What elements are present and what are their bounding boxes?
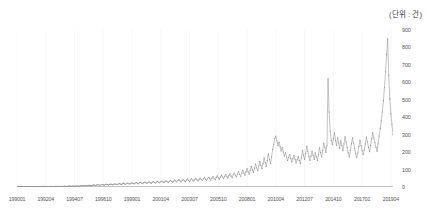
data-point — [134, 183, 135, 184]
data-point — [167, 181, 168, 182]
data-point — [100, 185, 101, 186]
x-tick-200104: 200104 — [148, 196, 174, 202]
data-point — [177, 180, 178, 181]
data-point — [267, 160, 268, 161]
x-tick-201207: 201207 — [292, 196, 318, 202]
data-point — [163, 182, 164, 183]
data-point — [172, 182, 173, 183]
data-point — [127, 183, 128, 184]
data-point — [238, 171, 239, 172]
data-point — [236, 177, 237, 178]
data-point — [325, 152, 326, 153]
data-point — [133, 183, 134, 184]
data-point — [242, 170, 243, 171]
data-point — [332, 144, 333, 145]
data-point — [294, 159, 295, 160]
vertical-gridlines — [17, 30, 391, 187]
data-point — [117, 184, 118, 185]
data-point — [257, 170, 258, 171]
y-tick-700: 700 — [402, 62, 411, 68]
x-tick-199407: 199407 — [62, 196, 88, 202]
data-point — [173, 180, 174, 181]
x-tick-199001: 199001 — [4, 196, 30, 202]
data-point — [153, 181, 154, 182]
data-point — [286, 156, 287, 157]
data-point — [97, 184, 98, 185]
data-point — [304, 159, 305, 160]
y-tick-400: 400 — [402, 114, 411, 120]
data-point — [210, 179, 211, 180]
data-point — [142, 183, 143, 184]
data-point — [272, 149, 273, 150]
data-point — [297, 159, 298, 160]
data-point — [298, 156, 299, 157]
data-point — [143, 182, 144, 183]
data-point — [199, 179, 200, 180]
data-point — [141, 182, 142, 183]
data-point — [81, 185, 82, 186]
y-tick-800: 800 — [402, 44, 411, 50]
data-point — [337, 137, 338, 138]
data-point — [183, 179, 184, 180]
data-point — [383, 100, 384, 101]
data-point — [264, 157, 265, 158]
data-point — [101, 184, 102, 185]
data-point — [94, 185, 95, 186]
data-point — [273, 144, 274, 145]
data-point — [329, 111, 330, 112]
data-point — [77, 185, 78, 186]
data-point — [178, 179, 179, 180]
data-point — [72, 185, 73, 186]
data-point — [319, 147, 320, 148]
data-point — [339, 148, 340, 149]
data-point — [291, 161, 292, 162]
data-point — [207, 178, 208, 179]
data-point — [343, 143, 344, 144]
data-point — [323, 142, 324, 143]
data-point — [274, 138, 275, 139]
data-point — [387, 38, 388, 39]
data-point — [165, 181, 166, 182]
data-point — [275, 136, 276, 137]
data-point — [200, 177, 201, 178]
data-point — [135, 182, 136, 183]
data-point — [314, 159, 315, 160]
data-point — [233, 174, 234, 175]
data-point — [301, 157, 302, 158]
data-point — [333, 138, 334, 139]
data-point — [270, 163, 271, 164]
data-point — [235, 175, 236, 176]
data-point — [309, 160, 310, 161]
data-point — [84, 185, 85, 186]
data-point — [202, 180, 203, 181]
data-point — [305, 153, 306, 154]
data-point — [176, 181, 177, 182]
data-point — [138, 183, 139, 184]
data-point — [367, 141, 368, 142]
data-point — [359, 140, 360, 141]
x-tick-200510: 200510 — [205, 196, 231, 202]
data-point — [261, 168, 262, 169]
chart-container: (단위 : 건) 0100200300400500600700800900 19… — [0, 0, 428, 219]
data-point — [231, 175, 232, 176]
x-tick-200801: 200801 — [234, 196, 260, 202]
data-point — [226, 176, 227, 177]
data-point — [217, 175, 218, 176]
data-point — [166, 180, 167, 181]
data-point — [191, 178, 192, 179]
data-point — [126, 183, 127, 184]
x-tick-201701: 201701 — [349, 196, 375, 202]
data-point — [136, 182, 137, 183]
data-point — [85, 185, 86, 186]
data-point — [107, 184, 108, 185]
data-point — [76, 185, 77, 186]
data-point — [348, 152, 349, 153]
data-point — [205, 179, 206, 180]
data-point — [79, 185, 80, 186]
data-point — [147, 182, 148, 183]
data-point — [229, 173, 230, 174]
data-point — [155, 182, 156, 183]
data-point — [380, 128, 381, 129]
data-point — [335, 140, 336, 141]
data-point — [151, 183, 152, 184]
